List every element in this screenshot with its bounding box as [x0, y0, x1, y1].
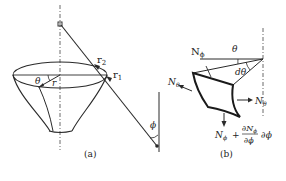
radial-upper — [193, 59, 263, 73]
caption-b: (b) — [220, 149, 233, 159]
phi-arc — [150, 135, 158, 138]
svg-text:+: + — [232, 130, 240, 140]
n-phi-top-pointer — [206, 66, 211, 77]
label-r: r — [52, 78, 57, 88]
label-phi: ϕ — [150, 120, 156, 130]
svg-text:∂ϕ: ∂ϕ — [244, 136, 254, 145]
shell-bottom — [49, 131, 72, 133]
panel-a: r2 r1 θ r ϕ (a) — [13, 5, 159, 159]
caption-a: (a) — [84, 149, 96, 159]
shell-right-side — [72, 75, 107, 131]
equation-n-phi-bottom: Nϕ + ∂Nϕ ∂ϕ ∂ϕ — [214, 124, 272, 145]
svg-text:∂Nϕ: ∂Nϕ — [242, 124, 257, 135]
svg-text:Nϕ: Nϕ — [214, 130, 227, 142]
shell-diagram: r2 r1 θ r ϕ (a) Nϕ θ dθ — [0, 0, 286, 181]
label-n-theta-right: Nθ — [254, 96, 267, 107]
svg-text:∂ϕ: ∂ϕ — [261, 130, 272, 140]
n-theta-right-arrowhead — [248, 98, 253, 103]
label-theta-a: θ — [35, 76, 41, 86]
label-n-theta-left: Nθ — [167, 77, 180, 88]
label-theta-b: θ — [232, 44, 238, 54]
shell-element — [193, 73, 240, 117]
n-phi-bottom-arrowhead — [222, 121, 227, 127]
theta-arc — [48, 75, 50, 81]
label-dtheta: dθ — [235, 67, 247, 77]
label-r2: r2 — [97, 54, 106, 67]
panel-b: Nϕ θ dθ Nθ Nθ Nϕ + ∂Nϕ ∂ϕ ∂ϕ (b) — [167, 28, 272, 159]
phi-point — [155, 144, 159, 148]
label-r1: r1 — [113, 69, 122, 82]
dtheta-arc — [246, 62, 250, 70]
label-n-phi-top: Nϕ — [191, 46, 205, 59]
normal-line — [61, 25, 157, 146]
